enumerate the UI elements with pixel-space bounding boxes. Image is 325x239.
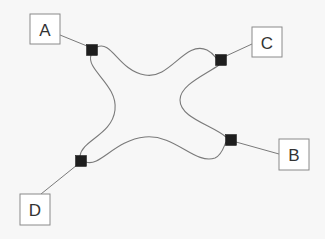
junction-c [216, 55, 227, 66]
junction-b [226, 135, 237, 146]
network-diagram: A C B D [0, 0, 325, 239]
node-d: D [20, 194, 50, 225]
junction-a [87, 45, 98, 56]
node-b-label: B [288, 146, 299, 165]
node-c: C [252, 27, 282, 57]
node-d-label: D [29, 201, 41, 220]
node-c-label: C [261, 34, 273, 53]
junction-d [76, 156, 87, 167]
node-a: A [30, 14, 60, 44]
node-a-label: A [39, 21, 51, 40]
node-b: B [279, 139, 309, 170]
